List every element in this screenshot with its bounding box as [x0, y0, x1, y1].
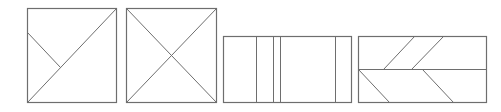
shape-3-outline	[224, 37, 352, 103]
shape-4-line-2	[384, 37, 415, 70]
shape-4-line-3	[412, 37, 444, 70]
shape-4-line-5	[423, 70, 454, 103]
shape-1-line-2	[28, 33, 61, 68]
figure-canvas	[0, 0, 501, 112]
shape-4-rectangle-slanted-cuts	[359, 37, 487, 103]
shape-2-square-x-diagonals	[127, 9, 217, 103]
shape-1-line-1	[28, 9, 117, 103]
shape-1-square-diagonal-with-segment	[28, 9, 117, 103]
shape-3-rectangle-vertical-strips	[224, 37, 352, 103]
dissected-shapes-diagram	[0, 0, 501, 112]
shape-4-line-4	[359, 70, 390, 103]
